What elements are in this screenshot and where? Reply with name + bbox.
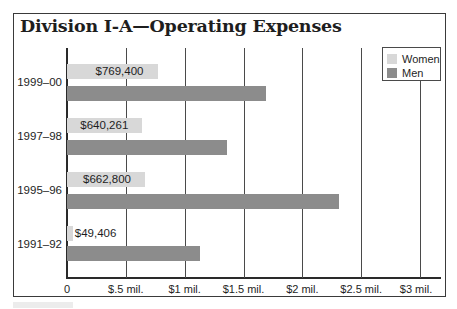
x-tick-label: $1 mil. (168, 283, 200, 295)
category-label: 1995–96 (12, 184, 62, 196)
bar-men (67, 86, 266, 101)
gridline (126, 48, 127, 278)
gridline (420, 81, 421, 278)
bar-men (67, 194, 339, 209)
bar-men (67, 140, 227, 155)
bar-value-label: $49,406 (75, 226, 117, 241)
bar-men (67, 246, 200, 261)
legend-swatch-men (387, 68, 397, 78)
legend-swatch-women (387, 54, 397, 64)
x-tick-label: $.5 mil. (108, 283, 143, 295)
bar-value-label: $662,800 (83, 172, 131, 187)
legend-item-men: Men (387, 67, 423, 79)
x-tick-label: $3 mil. (400, 283, 432, 295)
x-tick-label: $2 mil. (286, 283, 318, 295)
x-tick-label: 0 (64, 283, 70, 295)
gridline (361, 48, 362, 278)
legend-label-men: Men (402, 67, 423, 79)
bar-value-label: $769,400 (96, 64, 144, 79)
figure-caption-cutoff (13, 302, 73, 308)
y-axis (66, 48, 68, 279)
gridline (244, 48, 245, 278)
x-tick-label: $1.5 mil. (223, 283, 265, 295)
x-axis (66, 277, 441, 279)
category-label: 1999–00 (12, 76, 62, 88)
gridline (185, 48, 186, 278)
category-label: 1991–92 (12, 238, 62, 250)
bar-women (67, 226, 73, 241)
bar-value-label: $640,261 (80, 118, 128, 133)
x-tick-label: $2.5 mil. (340, 283, 382, 295)
gridline (302, 48, 303, 278)
legend-item-women: Women (387, 53, 440, 65)
category-label: 1997–98 (12, 130, 62, 142)
legend-label-women: Women (402, 53, 440, 65)
legend: Women Men (382, 47, 441, 81)
